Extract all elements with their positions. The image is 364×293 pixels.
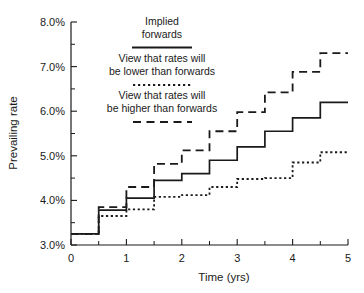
y-tick-label-8: 8.0%	[40, 16, 65, 28]
legend-label-implied-forwards-line2: forwards	[142, 28, 182, 40]
legend-label-higher-line1: View that rates will	[119, 89, 206, 101]
x-tick-label-4: 4	[290, 252, 296, 264]
x-tick-label-3: 3	[234, 252, 240, 264]
x-tick-label-0: 0	[68, 252, 74, 264]
x-tick-label-1: 1	[123, 252, 129, 264]
legend-entry-lower-than-forwards: View that rates will be lower than forwa…	[109, 52, 215, 85]
x-axis-title: Time (yrs)	[198, 271, 249, 283]
legend-label-implied-forwards-line1: Implied	[145, 15, 179, 27]
legend-label-lower-line2: be lower than forwards	[109, 65, 215, 77]
y-axis-title: Prevailing rate	[7, 96, 19, 170]
y-tick-label-4: 4.0%	[40, 194, 65, 206]
x-tick-label-2: 2	[179, 252, 185, 264]
chart-plot: 8.0% 7.0% 6.0% 5.0% 4.0% 3.0% 0 1 2 3 4 …	[0, 0, 364, 293]
y-tick-label-3: 3.0%	[40, 239, 65, 251]
y-tick-label-6: 6.0%	[40, 105, 65, 117]
legend-label-higher-line2: be higher than forwards	[107, 102, 217, 114]
y-tick-label-5: 5.0%	[40, 150, 65, 162]
chart-container: 8.0% 7.0% 6.0% 5.0% 4.0% 3.0% 0 1 2 3 4 …	[0, 0, 364, 293]
legend-entry-higher-than-forwards: View that rates will be higher than forw…	[107, 89, 217, 122]
series-line-higher-than-forwards	[71, 53, 348, 234]
x-tick-label-5: 5	[345, 252, 351, 264]
legend-label-lower-line1: View that rates will	[119, 52, 206, 64]
legend: Implied forwards View that rates will be…	[107, 15, 217, 122]
series-line-implied-forwards	[71, 102, 348, 234]
legend-entry-implied-forwards: Implied forwards	[132, 15, 192, 48]
y-tick-label-7: 7.0%	[40, 61, 65, 73]
